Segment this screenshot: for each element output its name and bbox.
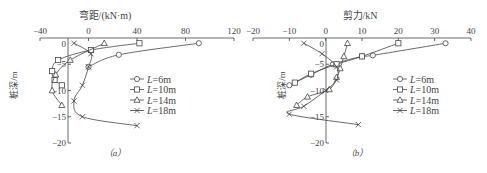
chart-a-legend: L=6mL=10mL=14mL=18m xyxy=(130,74,176,117)
legend-item: L=18m xyxy=(393,105,439,116)
series-l-14m xyxy=(49,40,107,107)
svg-text:L=6m: L=6m xyxy=(146,74,171,85)
svg-text:0: 0 xyxy=(320,39,325,49)
legend-item: L=14m xyxy=(130,95,176,106)
svg-text:30: 30 xyxy=(430,26,440,36)
svg-text:−20: −20 xyxy=(246,26,261,36)
svg-text:L=6m: L=6m xyxy=(409,74,434,85)
svg-text:10: 10 xyxy=(358,26,368,36)
svg-text:20: 20 xyxy=(394,26,404,36)
series-l-14m xyxy=(294,40,351,107)
legend-item: L=6m xyxy=(393,74,434,85)
legend-item: L=6m xyxy=(130,74,171,85)
svg-text:0: 0 xyxy=(86,26,91,36)
chart-b-title: 剪力/kN xyxy=(343,9,378,21)
svg-text:−5: −5 xyxy=(314,59,324,69)
svg-text:L=14m: L=14m xyxy=(409,95,439,106)
svg-text:−20: −20 xyxy=(52,138,67,148)
chart-b-ylabel: 桩深/m xyxy=(276,71,287,99)
svg-text:−15: −15 xyxy=(52,112,67,122)
svg-text:−20: −20 xyxy=(310,138,325,148)
chart-a-title: 弯距/(kN·m) xyxy=(79,9,132,22)
svg-text:0: 0 xyxy=(62,39,67,49)
legend-item: L=14m xyxy=(393,95,439,106)
svg-text:0: 0 xyxy=(323,26,328,36)
svg-text:120: 120 xyxy=(227,26,241,36)
svg-text:40: 40 xyxy=(467,26,477,36)
legend-item: L=10m xyxy=(130,84,176,95)
chart-a-caption: （a） xyxy=(104,148,127,158)
svg-text:L=10m: L=10m xyxy=(146,84,176,95)
legend-item: L=18m xyxy=(130,105,176,116)
svg-text:L=18m: L=18m xyxy=(409,105,439,116)
svg-text:−40: −40 xyxy=(33,26,48,36)
chart-b-shear: 剪力/kN −20−100102030400−5−10−15−20 桩深/m L… xyxy=(246,9,476,158)
svg-text:−15: −15 xyxy=(310,112,325,122)
chart-a-ylabel: 桩深/m xyxy=(8,71,19,99)
svg-text:80: 80 xyxy=(181,26,191,36)
chart-a-series xyxy=(49,40,201,128)
figure: 弯距/(kN·m) −40040801200−5−10−15−20 桩深/m L… xyxy=(0,0,487,173)
svg-text:L=10m: L=10m xyxy=(409,84,439,95)
svg-text:40: 40 xyxy=(133,26,143,36)
chart-b-caption: （b） xyxy=(346,148,369,158)
svg-text:−10: −10 xyxy=(282,26,297,36)
legend-item: L=10m xyxy=(393,84,439,95)
svg-text:L=18m: L=18m xyxy=(146,105,176,116)
chart-a-moment: 弯距/(kN·m) −40040801200−5−10−15−20 桩深/m L… xyxy=(8,9,241,158)
svg-text:L=14m: L=14m xyxy=(146,95,176,106)
chart-b-legend: L=6mL=10mL=14mL=18m xyxy=(393,74,439,117)
